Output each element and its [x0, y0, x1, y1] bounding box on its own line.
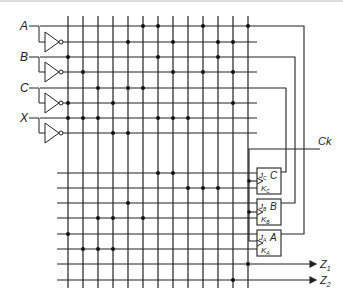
- connection-dot: [66, 116, 70, 120]
- output-arrow-icon: [310, 261, 316, 267]
- connection-dot: [201, 186, 205, 190]
- connection-dot: [111, 101, 115, 105]
- connection-dot: [156, 24, 160, 28]
- j-subscript: A: [262, 237, 267, 243]
- connection-dot: [96, 247, 100, 251]
- output-subscript: 2: [326, 281, 331, 288]
- connection-dot: [231, 70, 235, 74]
- inverter-feed: [39, 88, 45, 103]
- connection-dot: [126, 201, 130, 205]
- inverter-bubble-icon: [59, 131, 63, 135]
- connection-dot: [126, 86, 130, 90]
- connection-dot: [96, 86, 100, 90]
- connection-dot: [111, 131, 115, 135]
- feedback-c: [257, 88, 286, 172]
- q-output-label: B: [270, 201, 277, 212]
- flipflop-a: JAAKA: [257, 230, 281, 256]
- output-arrow-icon: [310, 277, 316, 283]
- q-output-label: A: [269, 232, 277, 243]
- clock-junction-dot: [247, 179, 251, 183]
- input-inverters: [29, 26, 63, 143]
- connection-dot: [66, 232, 70, 236]
- connection-dot: [111, 247, 115, 251]
- connection-dot: [216, 40, 220, 44]
- q-output-label: C: [270, 170, 278, 181]
- connection-dot: [201, 70, 205, 74]
- input-label-x: X: [19, 111, 29, 125]
- connection-dot: [171, 70, 175, 74]
- connection-dot: [141, 24, 145, 28]
- connection-dot: [126, 131, 130, 135]
- connection-dot: [111, 216, 115, 220]
- connection-dot: [66, 101, 70, 105]
- connection-dot: [231, 40, 235, 44]
- inverter-icon: [45, 62, 59, 82]
- connection-dot: [156, 55, 160, 59]
- flipflop-c: JCCKC: [257, 168, 281, 194]
- clock-junction-dot: [247, 210, 251, 214]
- inverter-bubble-icon: [59, 70, 63, 74]
- inverter-icon: [45, 93, 59, 113]
- output-label-z2: Z2: [319, 274, 331, 288]
- inverter-feed: [39, 57, 45, 72]
- connection-dot: [186, 186, 190, 190]
- connection-dot: [156, 171, 160, 175]
- connection-dot: [231, 101, 235, 105]
- inverter-bubble-icon: [59, 101, 63, 105]
- connection-dot: [186, 116, 190, 120]
- jk-flipflops: JCCKCJBBKBJAAKA: [257, 168, 281, 256]
- connection-dot: [246, 24, 250, 28]
- k-subscript: A: [265, 250, 270, 256]
- inverter-feed: [39, 26, 45, 42]
- output-subscript: 1: [327, 265, 331, 272]
- input-label-a: A: [19, 19, 28, 33]
- connection-dot: [216, 55, 220, 59]
- pla-sequential-circuit-diagram: JCCKCJBBKBJAAKA ABCXCkZ1Z2: [0, 0, 343, 299]
- connection-dot: [201, 24, 205, 28]
- connection-dot: [141, 216, 145, 220]
- connection-dot: [156, 116, 160, 120]
- output-label-z1: Z1: [319, 258, 331, 272]
- connection-dot: [171, 171, 175, 175]
- inverter-icon: [45, 32, 59, 52]
- connection-dot: [171, 116, 175, 120]
- connection-dot: [81, 247, 85, 251]
- connection-dot: [126, 40, 130, 44]
- connection-dot: [96, 216, 100, 220]
- connection-dot: [231, 278, 235, 282]
- flipflop-b: JBBKB: [257, 199, 281, 225]
- connection-dot: [171, 40, 175, 44]
- input-label-c: C: [20, 81, 29, 95]
- inverter-bubble-icon: [59, 40, 63, 44]
- clock-line: [249, 149, 320, 241]
- j-subscript: C: [263, 175, 267, 181]
- connection-dot: [141, 86, 145, 90]
- k-subscript: C: [266, 188, 270, 194]
- connection-dot: [81, 116, 85, 120]
- connection-dot: [96, 116, 100, 120]
- clock-label: Ck: [318, 135, 332, 147]
- inverter-feed: [39, 118, 45, 133]
- input-label-b: B: [20, 50, 28, 64]
- connection-dot: [216, 186, 220, 190]
- connection-dot: [81, 70, 85, 74]
- inverter-icon: [45, 123, 59, 143]
- connection-dot: [246, 262, 250, 266]
- labels: ABCXCkZ1Z2: [19, 19, 332, 288]
- connection-dot: [66, 55, 70, 59]
